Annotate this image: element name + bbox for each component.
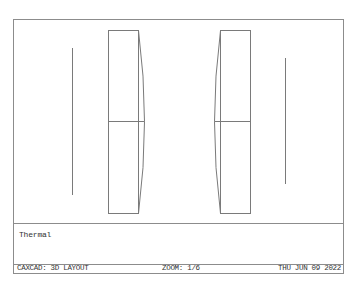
optical-layout-drawing <box>14 20 343 223</box>
status-bar: CAXCAD: 3D LAYOUT ZOOM: 1/6 THU JUN 09 2… <box>14 265 343 273</box>
status-zoom-level: ZOOM: 1/6 <box>162 264 200 273</box>
right-lens <box>215 31 251 214</box>
message-text-area[interactable]: Thermal <box>14 224 343 265</box>
message-text: Thermal <box>19 230 51 239</box>
status-app-mode: CAXCAD: 3D LAYOUT <box>17 264 88 273</box>
3d-layout-canvas[interactable] <box>14 20 343 224</box>
status-date: THU JUN 09 2022 <box>278 264 341 273</box>
cad-window-frame: Thermal CAXCAD: 3D LAYOUT ZOOM: 1/6 THU … <box>13 19 344 274</box>
left-lens <box>109 31 145 214</box>
